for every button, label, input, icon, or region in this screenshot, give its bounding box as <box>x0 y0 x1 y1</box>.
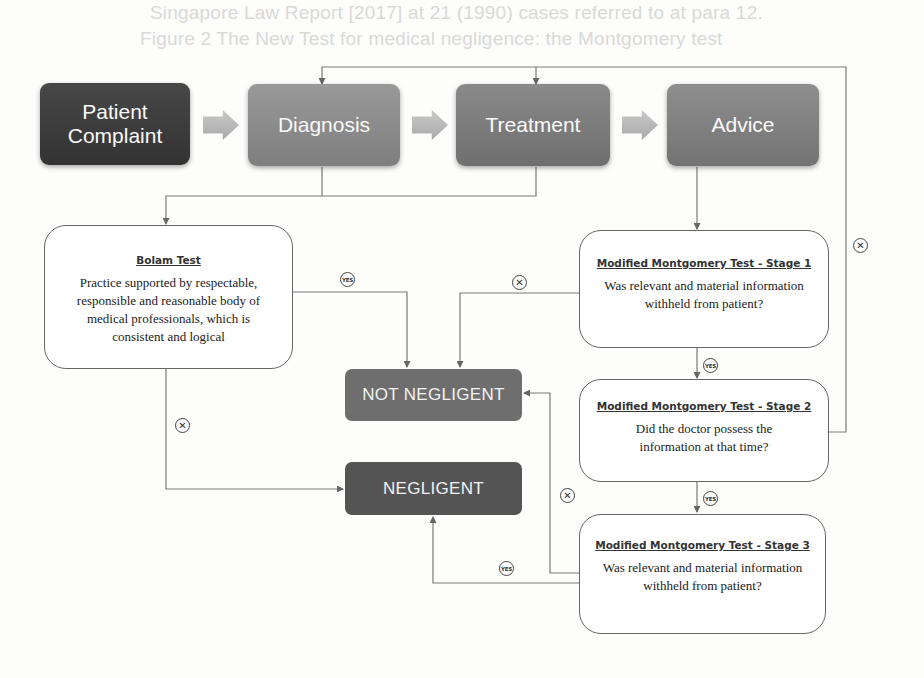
stage-patient-complaint: Patient Complaint <box>40 83 190 165</box>
yes-badge-icon: YES <box>703 358 718 373</box>
m1-no-path <box>460 293 580 367</box>
stage-diagnosis: Diagnosis <box>248 84 400 166</box>
stage-label: Diagnosis <box>278 113 370 137</box>
outcome-label: NOT NEGLIGENT <box>362 385 504 405</box>
treat-join <box>322 167 536 196</box>
bolam-test-box: Bolam Test Practice supported by respect… <box>44 225 293 369</box>
bolam-no-path <box>166 369 343 489</box>
m3-no-path <box>524 393 579 573</box>
stage-label: Patient Complaint <box>60 100 170 148</box>
montgomery-stage-1-title: Modified Montgomery Test - Stage 1 <box>580 257 828 269</box>
bolam-yes-path <box>293 292 407 367</box>
montgomery-stage-2-body: Did the doctor possess the information a… <box>580 420 828 456</box>
yes-badge-icon: YES <box>340 272 355 287</box>
bolam-test-title: Bolam Test <box>45 254 292 266</box>
montgomery-stage-3-body: Was relevant and material information wi… <box>580 559 825 595</box>
no-badge-icon: ✕ <box>512 275 527 290</box>
no-badge-icon: ✕ <box>853 238 868 253</box>
no-badge-icon: ✕ <box>175 418 190 433</box>
stage-advice: Advice <box>667 84 819 166</box>
outcome-not-negligent: NOT NEGLIGENT <box>345 369 522 421</box>
montgomery-stage-2-box: Modified Montgomery Test - Stage 2 Did t… <box>579 379 829 482</box>
montgomery-stage-1-box: Modified Montgomery Test - Stage 1 Was r… <box>579 230 829 348</box>
stage-treatment: Treatment <box>456 84 610 166</box>
no-badge-icon: ✕ <box>560 488 575 503</box>
outcome-label: NEGLIGENT <box>383 479 484 499</box>
montgomery-stage-1-body: Was relevant and material information wi… <box>580 277 828 313</box>
montgomery-stage-3-title: Modified Montgomery Test - Stage 3 <box>580 539 825 551</box>
outcome-negligent: NEGLIGENT <box>345 462 522 515</box>
yes-badge-icon: YES <box>703 491 718 506</box>
diag-to-bolam <box>166 167 322 224</box>
bolam-test-body: Practice supported by respectable, respo… <box>45 274 292 346</box>
montgomery-stage-2-title: Modified Montgomery Test - Stage 2 <box>580 400 828 412</box>
stage-label: Advice <box>711 113 774 137</box>
stage-label: Treatment <box>486 113 581 137</box>
yes-badge-icon: YES <box>499 561 514 576</box>
montgomery-stage-3-box: Modified Montgomery Test - Stage 3 Was r… <box>579 514 826 634</box>
